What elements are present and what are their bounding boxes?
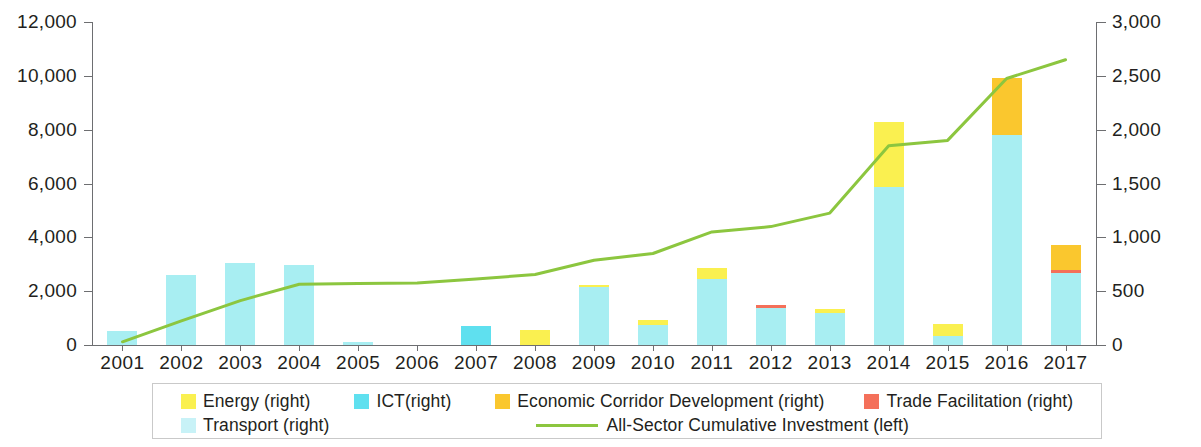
left-axis-tick-label: 6,000: [0, 173, 77, 195]
legend-color-swatch: [354, 394, 369, 409]
chart-legend: Energy (right)ICT(right)Economic Corrido…: [152, 383, 1102, 439]
right-axis-tick: [1097, 22, 1106, 23]
legend-item: Economic Corridor Development (right): [495, 391, 824, 412]
legend-item-label: Economic Corridor Development (right): [517, 391, 824, 412]
x-axis-tick: [653, 345, 654, 351]
left-axis-tick: [84, 76, 93, 77]
right-axis-tick: [1097, 76, 1106, 77]
x-axis-tick: [476, 345, 477, 351]
right-axis-tick-label: 1,500: [1112, 173, 1161, 195]
x-axis-tick: [1066, 345, 1067, 351]
right-axis-tick-label: 1,000: [1112, 226, 1161, 248]
left-axis-tick: [84, 345, 93, 346]
x-axis-tick: [889, 345, 890, 351]
legend-item: Trade Facilitation (right): [864, 391, 1073, 412]
right-axis-tick-label: 2,500: [1112, 65, 1161, 87]
cumulative-line-path: [123, 60, 1066, 342]
left-axis-tick: [84, 291, 93, 292]
x-axis-tick: [535, 345, 536, 351]
legend-line-marker: [536, 424, 598, 427]
x-axis-tick: [358, 345, 359, 351]
right-axis-tick: [1097, 237, 1106, 238]
x-axis-tick: [240, 345, 241, 351]
x-axis-tick: [712, 345, 713, 351]
left-axis-tick-label: 4,000: [0, 226, 77, 248]
x-axis-tick: [299, 345, 300, 351]
legend-item-label: Trade Facilitation (right): [886, 391, 1073, 412]
left-axis-tick-label: 12,000: [0, 11, 77, 33]
cumulative-investment-line: [93, 22, 1095, 345]
right-axis-tick: [1097, 291, 1106, 292]
left-axis-tick-label: 10,000: [0, 65, 77, 87]
x-axis-tick: [417, 345, 418, 351]
legend-item-label: ICT(right): [376, 391, 451, 412]
left-axis-tick-label: 0: [0, 334, 77, 356]
left-axis-tick-label: 8,000: [0, 119, 77, 141]
right-axis-tick-label: 500: [1112, 280, 1145, 302]
x-axis-tick: [1007, 345, 1008, 351]
legend-item: All-Sector Cumulative Investment (left): [536, 415, 909, 436]
legend-item: Transport (right): [181, 415, 330, 436]
x-axis-tick: [122, 345, 123, 351]
legend-color-swatch: [181, 394, 196, 409]
left-axis-tick: [84, 130, 93, 131]
right-axis-tick-label: 2,000: [1112, 119, 1161, 141]
plot-area: 02,0004,0006,0008,00010,00012,00005001,0…: [0, 0, 1201, 360]
right-axis-tick: [1097, 184, 1106, 185]
legend-color-swatch: [495, 394, 510, 409]
legend-color-swatch: [181, 418, 196, 433]
legend-color-swatch: [864, 394, 879, 409]
legend-item-label: All-Sector Cumulative Investment (left): [607, 415, 909, 436]
left-axis-tick: [84, 22, 93, 23]
plot-canvas: [93, 22, 1095, 345]
right-axis-tick-label: 3,000: [1112, 11, 1161, 33]
x-axis-tick: [948, 345, 949, 351]
x-axis-tick: [771, 345, 772, 351]
legend-item-label: Energy (right): [203, 391, 310, 412]
left-axis-tick-label: 2,000: [0, 280, 77, 302]
x-axis-tick-label: 2017: [1031, 352, 1101, 374]
legend-item: Energy (right): [181, 391, 310, 412]
left-axis-tick: [84, 184, 93, 185]
right-axis-tick: [1097, 345, 1106, 346]
x-axis-tick: [181, 345, 182, 351]
right-axis-tick: [1097, 130, 1106, 131]
x-axis-tick: [830, 345, 831, 351]
left-axis-tick: [84, 237, 93, 238]
legend-item-label: Transport (right): [203, 415, 330, 436]
x-axis-tick: [594, 345, 595, 351]
right-axis-tick-label: 0: [1112, 334, 1123, 356]
chart-page: 02,0004,0006,0008,00010,00012,00005001,0…: [0, 0, 1201, 447]
legend-row-1: Energy (right)ICT(right)Economic Corrido…: [163, 389, 1093, 413]
legend-item: ICT(right): [354, 391, 451, 412]
legend-row-2: Transport (right)All-Sector Cumulative I…: [163, 413, 1093, 437]
